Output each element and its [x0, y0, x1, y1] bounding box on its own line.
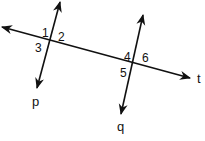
- angle-label-5: 5: [120, 66, 127, 80]
- line-label-t: t: [197, 71, 201, 86]
- diagram-canvas: 1 2 3 4 6 5 t p q: [0, 0, 205, 141]
- transversal-diagram: 1 2 3 4 6 5 t p q: [0, 0, 205, 141]
- angle-label-3: 3: [35, 41, 42, 55]
- line-label-q: q: [117, 119, 124, 134]
- angle-label-1: 1: [42, 26, 49, 40]
- angle-label-4: 4: [124, 50, 131, 64]
- angle-label-6: 6: [142, 51, 149, 65]
- line-t: [2, 27, 190, 78]
- angle-label-2: 2: [58, 30, 65, 44]
- line-label-p: p: [32, 94, 39, 109]
